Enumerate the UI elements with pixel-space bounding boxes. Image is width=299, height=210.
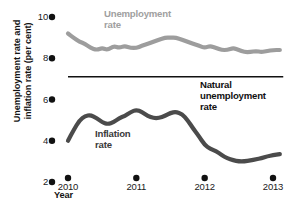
x-axis-tick-markers [65,175,276,181]
natural-unemployment-rate-label: Natural unemployment rate [200,79,296,112]
y-tick-dot [49,96,55,102]
y-tick-label: 8 [24,52,48,63]
unemployment-rate-label-line1: Unemployment [104,8,190,19]
y-tick-label: 2 [24,176,48,187]
series-line-unemployment-rate [68,34,280,53]
unemployment-rate-label-line2: rate [104,19,190,30]
inflation-rate-label: Inflation rate [95,128,161,150]
inflation-rate-label-line2: rate [95,139,161,150]
y-tick-label: 4 [24,135,48,146]
unemployment-rate-label: Unemployment rate [104,8,190,30]
y-tick-label: 6 [24,94,48,105]
natural-rate-label-line3: rate [200,101,296,112]
natural-rate-label-line1: Natural [200,79,296,90]
x-tick-label: 2013 [253,181,293,192]
y-tick-dot [49,138,55,144]
natural-rate-label-line2: unemployment [200,90,296,101]
x-tick-label: 2012 [185,181,225,192]
figure-unemployment-inflation: Unemployment rate and inflation rate (pe… [0,0,299,210]
y-axis-tick-markers [49,14,55,185]
x-axis-title: Year [54,190,73,200]
inflation-rate-label-line1: Inflation [95,128,161,139]
x-tick-label: 2011 [116,181,156,192]
y-tick-dot [49,55,55,61]
y-tick-label: 10 [24,11,48,22]
y-axis-title-line1: Unemployment rate and [12,0,23,146]
y-tick-dot [49,14,55,20]
